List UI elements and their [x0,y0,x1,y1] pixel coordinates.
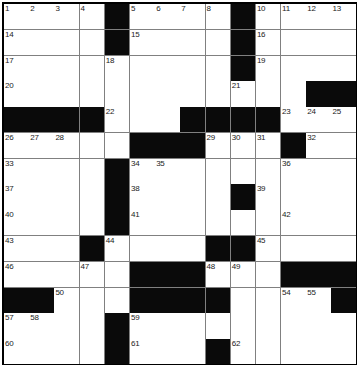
grid-open-cell[interactable] [306,56,331,81]
grid-open-cell[interactable] [306,159,331,184]
grid-open-cell[interactable]: 22 [105,107,130,132]
grid-open-cell[interactable]: 58 [29,313,54,338]
grid-open-cell[interactable] [180,56,205,81]
grid-open-cell[interactable]: 26 [4,133,29,158]
grid-open-cell[interactable] [29,81,54,106]
grid-open-cell[interactable] [306,210,331,235]
grid-open-cell[interactable]: 29 [206,133,231,158]
grid-open-cell[interactable]: 33 [4,159,29,184]
grid-open-cell[interactable] [80,81,105,106]
grid-open-cell[interactable] [54,210,79,235]
grid-open-cell[interactable] [29,56,54,81]
grid-open-cell[interactable] [256,288,281,313]
grid-open-cell[interactable]: 41 [130,210,155,235]
grid-open-cell[interactable] [231,159,256,184]
grid-open-cell[interactable]: 45 [256,236,281,261]
grid-open-cell[interactable] [331,133,356,158]
grid-open-cell[interactable] [105,262,130,287]
grid-open-cell[interactable] [281,339,306,364]
grid-open-cell[interactable]: 43 [4,236,29,261]
grid-open-cell[interactable] [130,107,155,132]
grid-open-cell[interactable] [306,339,331,364]
grid-open-cell[interactable] [130,81,155,106]
grid-open-cell[interactable] [180,159,205,184]
grid-open-cell[interactable]: 37 [4,184,29,209]
grid-open-cell[interactable] [54,313,79,338]
grid-open-cell[interactable]: 39 [256,184,281,209]
grid-open-cell[interactable] [231,210,256,235]
grid-open-cell[interactable]: 18 [105,56,130,81]
grid-open-cell[interactable] [256,262,281,287]
grid-open-cell[interactable] [206,210,231,235]
grid-open-cell[interactable]: 20 [4,81,29,106]
grid-open-cell[interactable] [331,184,356,209]
grid-open-cell[interactable] [231,288,256,313]
grid-open-cell[interactable]: 46 [4,262,29,287]
grid-open-cell[interactable] [80,288,105,313]
grid-open-cell[interactable]: 44 [105,236,130,261]
grid-open-cell[interactable] [130,236,155,261]
grid-open-cell[interactable]: 25 [331,107,356,132]
grid-open-cell[interactable]: 15 [130,30,155,55]
grid-open-cell[interactable] [54,184,79,209]
grid-open-cell[interactable]: 3 [54,4,79,29]
grid-open-cell[interactable] [29,236,54,261]
grid-open-cell[interactable] [206,184,231,209]
grid-open-cell[interactable] [29,210,54,235]
grid-open-cell[interactable]: 31 [256,133,281,158]
grid-open-cell[interactable] [180,210,205,235]
grid-open-cell[interactable] [281,81,306,106]
grid-open-cell[interactable] [180,184,205,209]
grid-open-cell[interactable] [155,107,180,132]
grid-open-cell[interactable] [80,159,105,184]
grid-open-cell[interactable]: 11 [281,4,306,29]
grid-open-cell[interactable] [231,313,256,338]
grid-open-cell[interactable]: 10 [256,4,281,29]
grid-open-cell[interactable] [281,313,306,338]
grid-open-cell[interactable] [306,236,331,261]
grid-open-cell[interactable] [155,236,180,261]
grid-open-cell[interactable] [54,56,79,81]
grid-open-cell[interactable]: 24 [306,107,331,132]
grid-open-cell[interactable] [306,30,331,55]
grid-open-cell[interactable] [331,30,356,55]
grid-open-cell[interactable] [256,159,281,184]
grid-open-cell[interactable] [331,159,356,184]
grid-open-cell[interactable] [180,339,205,364]
grid-open-cell[interactable] [29,159,54,184]
grid-open-cell[interactable]: 38 [130,184,155,209]
grid-open-cell[interactable]: 8 [206,4,231,29]
grid-open-cell[interactable] [80,339,105,364]
grid-open-cell[interactable] [256,339,281,364]
grid-open-cell[interactable]: 19 [256,56,281,81]
grid-open-cell[interactable]: 40 [4,210,29,235]
grid-open-cell[interactable]: 42 [281,210,306,235]
grid-open-cell[interactable] [306,184,331,209]
grid-open-cell[interactable] [331,313,356,338]
grid-open-cell[interactable] [331,236,356,261]
grid-open-cell[interactable] [29,339,54,364]
grid-open-cell[interactable]: 50 [54,288,79,313]
grid-open-cell[interactable] [54,236,79,261]
grid-open-cell[interactable] [155,30,180,55]
grid-open-cell[interactable] [80,56,105,81]
grid-open-cell[interactable] [155,56,180,81]
grid-open-cell[interactable] [206,81,231,106]
grid-open-cell[interactable] [306,313,331,338]
grid-open-cell[interactable] [331,56,356,81]
grid-open-cell[interactable]: 34 [130,159,155,184]
grid-open-cell[interactable] [256,81,281,106]
grid-open-cell[interactable] [180,236,205,261]
crossword-grid[interactable]: 1234567810111213141516171819202122232425… [2,2,357,365]
grid-open-cell[interactable] [155,210,180,235]
grid-open-cell[interactable]: 14 [4,30,29,55]
grid-open-cell[interactable] [80,210,105,235]
grid-open-cell[interactable]: 23 [281,107,306,132]
grid-open-cell[interactable]: 57 [4,313,29,338]
grid-open-cell[interactable] [180,313,205,338]
grid-open-cell[interactable] [29,262,54,287]
grid-open-cell[interactable]: 35 [155,159,180,184]
grid-open-cell[interactable]: 54 [281,288,306,313]
grid-open-cell[interactable] [206,56,231,81]
grid-open-cell[interactable] [155,339,180,364]
